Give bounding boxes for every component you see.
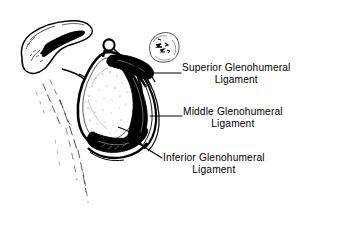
glenohumeral-ligament-figure: Superior Glenohumeral Ligament Middle Gl…: [0, 0, 337, 229]
figure-background: [0, 0, 337, 229]
label-superior-glenohumeral-ligament: Superior Glenohumeral Ligament: [182, 62, 290, 86]
label-middle-glenohumeral-ligament: Middle Glenohumeral Ligament: [183, 106, 283, 130]
label-inferior-line2: Ligament: [163, 164, 265, 176]
label-superior-line2: Ligament: [182, 74, 290, 86]
shoulder-anatomy-illustration: [0, 0, 337, 229]
label-middle-line2: Ligament: [183, 118, 283, 130]
label-inferior-glenohumeral-ligament: Inferior Glenohumeral Ligament: [163, 152, 265, 176]
label-superior-line1: Superior Glenohumeral: [182, 62, 290, 74]
label-inferior-line1: Inferior Glenohumeral: [163, 152, 265, 164]
supraglenoid-tubercle-circle: [103, 39, 114, 50]
label-middle-line1: Middle Glenohumeral: [183, 106, 283, 118]
